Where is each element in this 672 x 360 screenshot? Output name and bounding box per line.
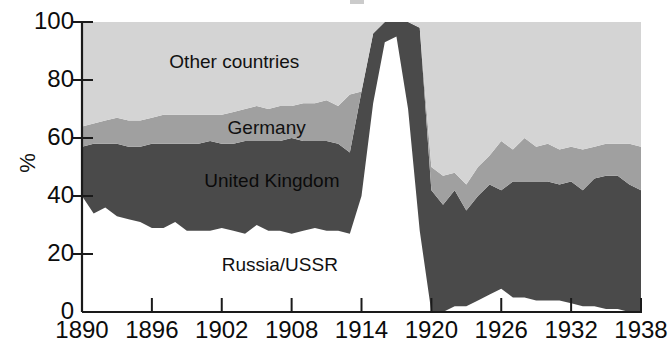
y-tick-label: 40 — [14, 183, 74, 207]
series-label-other: Other countries — [169, 51, 299, 73]
series-label-russia: Russia/USSR — [222, 254, 338, 276]
series-label-germany: Germany — [228, 117, 306, 139]
y-tick-label: 100 — [14, 9, 74, 33]
series-label-uk: United Kingdom — [204, 170, 339, 192]
scan-artifact — [350, 0, 364, 4]
y-tick-label: 60 — [14, 125, 74, 149]
y-tick-label: 20 — [14, 241, 74, 265]
y-axis-title: % — [15, 143, 41, 183]
y-tick-label: 80 — [14, 67, 74, 91]
x-tick-label: 1938 — [596, 318, 672, 342]
